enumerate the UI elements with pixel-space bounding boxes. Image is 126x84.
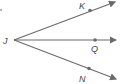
point-n bbox=[87, 67, 91, 71]
angle-diagram: J K Q N bbox=[0, 0, 126, 84]
label-n: N bbox=[79, 74, 86, 84]
point-q bbox=[93, 38, 97, 42]
label-q: Q bbox=[91, 44, 98, 54]
stray-dot bbox=[0, 9, 2, 11]
ray-jq bbox=[14, 38, 116, 42]
ray-jk bbox=[14, 2, 115, 40]
label-k: K bbox=[79, 1, 86, 11]
label-j: J bbox=[2, 36, 8, 46]
point-k bbox=[88, 9, 92, 13]
ray-jn bbox=[14, 40, 116, 79]
